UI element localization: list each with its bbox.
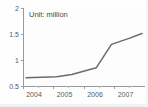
x-tick-label: 2007 xyxy=(118,91,134,98)
x-tick-label: 2004 xyxy=(26,91,42,98)
plot-background xyxy=(23,8,145,86)
unit-annotation: Unit: million xyxy=(29,10,68,19)
right-edge-strip xyxy=(146,0,148,107)
line-chart: 0.511.52 2004200520062007 Unit: million xyxy=(0,0,148,107)
chart-container: 0.511.52 2004200520062007 Unit: million xyxy=(0,0,148,107)
y-tick-label: 1 xyxy=(15,57,19,64)
x-tick-label: 2006 xyxy=(87,91,103,98)
y-tick-label: 0.5 xyxy=(9,83,19,90)
bottom-edge-strip xyxy=(0,104,148,107)
x-tick-label: 2005 xyxy=(57,91,73,98)
y-axis-ticks: 0.511.52 xyxy=(9,5,23,90)
y-tick-label: 2 xyxy=(15,5,19,12)
x-axis-ticks: 2004200520062007 xyxy=(23,86,133,98)
y-tick-label: 1.5 xyxy=(9,31,19,38)
